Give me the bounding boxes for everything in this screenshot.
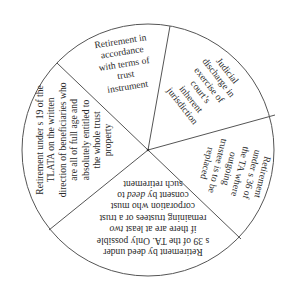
italic-two: two	[109, 224, 123, 235]
label-line: if there are at least two	[88, 224, 218, 235]
label-line: remaining trustees or a trust	[88, 212, 218, 223]
center-point	[147, 149, 150, 152]
label-line: absolutely entitled to	[80, 72, 91, 208]
label-line: s 39 of the TA. Only possible	[88, 235, 218, 246]
segment-s19-tlata-label: Retirement under s 19 of the TLATA on th…	[34, 72, 114, 208]
label-line: Retirement by deed under	[88, 246, 218, 257]
italic-deed: deed	[127, 190, 145, 201]
label-line: are all of full age and	[68, 72, 79, 208]
label-line: TLATA on the written	[45, 72, 56, 208]
label-line: direction of beneficiaries who	[57, 72, 68, 208]
label-line: property	[103, 72, 114, 208]
label-line: Retirement under s 19 of the	[34, 72, 45, 208]
label-line: the whole trust	[91, 72, 102, 208]
